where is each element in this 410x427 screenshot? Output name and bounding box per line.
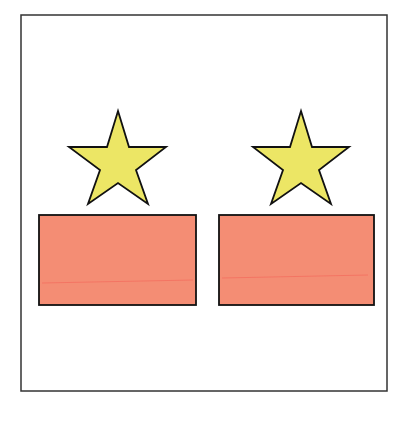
rectangle-left (39, 215, 196, 305)
frame-border (21, 15, 387, 391)
diagram-canvas (0, 0, 410, 427)
rectangle-right (219, 215, 374, 305)
